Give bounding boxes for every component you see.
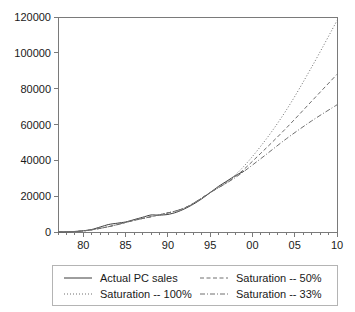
x-tick-label: 95: [204, 239, 216, 251]
y-tick-label: 20000: [20, 190, 51, 202]
x-tick-label: 90: [162, 239, 174, 251]
x-tick-label: 80: [77, 239, 89, 251]
chart-figure: 020000400006000080000100000120000 808590…: [0, 0, 355, 312]
x-tick-label: 85: [120, 239, 132, 251]
y-tick-label: 0: [45, 226, 51, 238]
y-tick-label: 60000: [20, 119, 51, 131]
legend-label: Saturation -- 33%: [236, 288, 322, 300]
legend-label: Saturation -- 50%: [236, 272, 322, 284]
y-tick-label: 80000: [20, 83, 51, 95]
y-tick-label: 40000: [20, 154, 51, 166]
x-tick-label: 10: [331, 239, 343, 251]
x-tick-label: 00: [246, 239, 258, 251]
y-tick-label: 100000: [14, 47, 51, 59]
legend-label: Saturation -- 100%: [100, 288, 192, 300]
y-tick-label: 120000: [14, 11, 51, 23]
legend-label: Actual PC sales: [100, 272, 178, 284]
pc-sales-line-chart: 020000400006000080000100000120000 808590…: [0, 0, 355, 312]
x-tick-label: 05: [289, 239, 301, 251]
